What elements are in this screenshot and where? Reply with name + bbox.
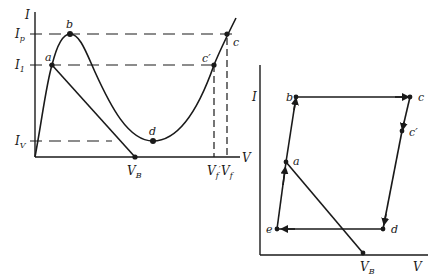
point-c-prime (211, 62, 216, 67)
right-x-axis-label: V (413, 260, 423, 274)
ip-label: Ip (14, 27, 25, 43)
right-point-c-prime-label: c′ (409, 126, 418, 139)
point-d-label: d (149, 125, 156, 138)
point-b (67, 31, 73, 37)
left-x-axis-label: V (242, 151, 252, 165)
point-a-label: a (45, 51, 52, 64)
right-y-axis-label: I (251, 90, 257, 104)
arrow-c-cprime (403, 122, 404, 127)
right-point-a (284, 160, 289, 165)
point-vb (132, 154, 137, 159)
arrow-a-b (294, 101, 296, 110)
right-point-e-label: e (266, 223, 273, 236)
iv-label: IV (14, 134, 27, 150)
diagram-canvas: I V Ip I1 IV VB Vf′ Vf b a c′ c d (0, 0, 440, 280)
point-b-label: b (66, 18, 73, 31)
point-d (150, 138, 156, 144)
right-point-vb (361, 251, 366, 256)
vb-label: VB (127, 164, 142, 180)
left-plot: I V Ip I1 IV VB Vf′ Vf b a c′ c d (14, 8, 252, 180)
right-point-e (275, 227, 280, 232)
arrow-e-a (283, 170, 285, 185)
right-plot: I V b c c′ a e d VB (251, 65, 428, 276)
i1-label: I1 (14, 58, 25, 74)
vf-label: Vf (221, 164, 235, 180)
right-point-c-prime (400, 129, 405, 134)
load-line (52, 65, 135, 157)
arrow-cprime-d (385, 214, 387, 222)
point-c-label: c (233, 36, 239, 49)
right-point-b-label: b (286, 91, 293, 104)
left-y-axis-label: I (24, 8, 30, 22)
right-load-line (286, 162, 363, 253)
right-point-c-label: c (418, 91, 424, 104)
right-point-a-label: a (293, 155, 300, 168)
right-vb-label: VB (360, 260, 375, 276)
iv-curve (35, 18, 236, 157)
point-c-prime-label: c′ (202, 52, 211, 65)
vf-prime-label: Vf′ (207, 164, 221, 180)
right-point-c (408, 95, 413, 100)
right-point-d (381, 227, 386, 232)
right-point-b (294, 95, 299, 100)
point-c (224, 31, 229, 36)
right-point-d-label: d (391, 223, 398, 236)
